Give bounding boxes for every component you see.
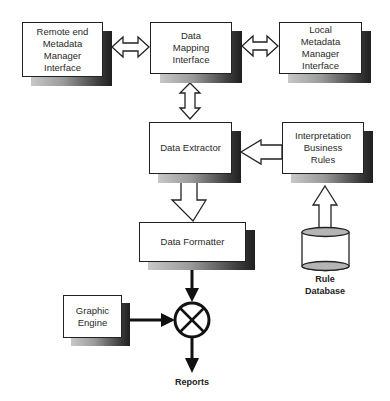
rule-database-label-line1: Rule <box>295 273 355 285</box>
database-cylinder-icon <box>302 228 349 271</box>
reports-label: Reports <box>162 376 222 388</box>
data-formatter-box: Data Formatter <box>139 222 246 262</box>
double-arrow-mapping-local <box>242 36 278 56</box>
rule-database-label-line2: Database <box>295 285 355 297</box>
arrow-combiner-to-reports <box>185 337 199 373</box>
double-arrow-mapping-extractor <box>180 83 200 119</box>
arrow-formatter-to-combiner <box>185 266 199 302</box>
data-extractor-box: Data Extractor <box>149 122 232 174</box>
data-mapping-interface-box: Data Mapping Interface <box>150 22 232 74</box>
interpretation-business-rules-box: Interpretation Business Rules <box>282 122 364 174</box>
double-arrow-remote-mapping <box>112 37 149 57</box>
local-metadata-manager-box: Local Metadata Manager Interface <box>279 22 362 74</box>
arrow-rules-to-extractor <box>241 140 282 164</box>
graphic-engine-box: Graphic Engine <box>63 295 122 338</box>
arrow-ruledb-to-rules <box>313 186 337 229</box>
combiner-x-circle-icon <box>175 303 209 337</box>
remote-metadata-manager-box: Remote end Metadata Manager Interface <box>22 22 103 77</box>
arrow-extractor-to-formatter <box>172 182 206 221</box>
